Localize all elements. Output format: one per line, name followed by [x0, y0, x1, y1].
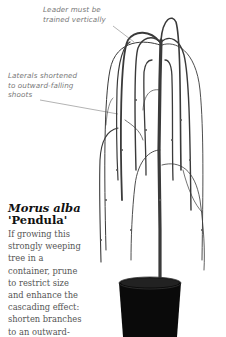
body-line: to restrict size — [8, 277, 120, 289]
caption-body: If growing this strongly weeping tree in… — [8, 228, 120, 337]
body-line: cascading effect: — [8, 301, 120, 313]
body-line: to an outward- — [8, 326, 120, 337]
annotation-line: shoots — [8, 90, 77, 100]
cultivar-name: 'Pendula' — [8, 214, 120, 226]
black-pot — [119, 277, 181, 337]
body-line: and enhance the — [8, 289, 120, 301]
body-line: strongly weeping — [8, 240, 120, 252]
annotation-line: Laterals shortened — [8, 71, 77, 81]
annotation-leader-line — [113, 26, 134, 42]
annotation-laterals: Laterals shortened to outward-falling sh… — [8, 71, 77, 100]
body-line: If growing this — [8, 228, 120, 240]
annotation-line: to outward-falling — [8, 81, 77, 91]
body-line: shorten branches — [8, 313, 120, 325]
body-line: tree in a — [8, 252, 120, 264]
caption-title: Morus alba 'Pendula' — [8, 202, 120, 226]
plant-caption: Morus alba 'Pendula' If growing this str… — [8, 202, 120, 337]
annotation-leader: Leader must be trained vertically — [43, 5, 106, 24]
body-line: container, prune — [8, 265, 120, 277]
annotation-line: trained vertically — [43, 15, 106, 25]
annotation-line: Leader must be — [43, 5, 106, 15]
